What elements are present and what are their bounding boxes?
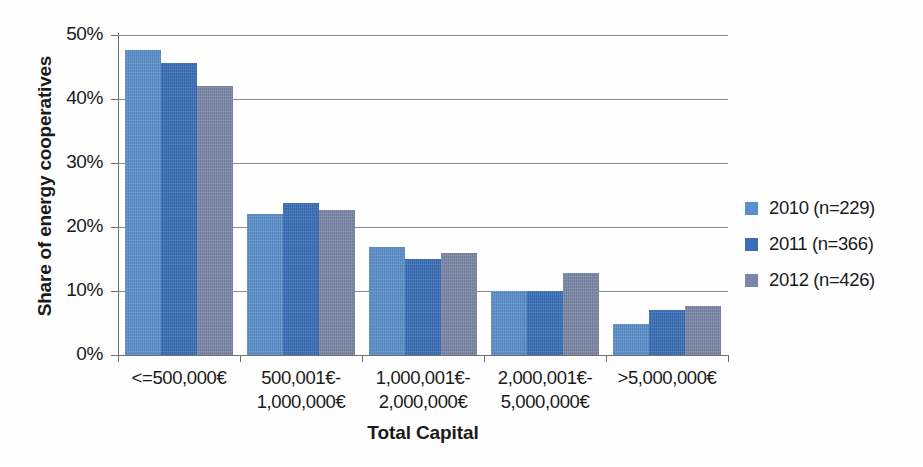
- bar: [369, 247, 405, 355]
- x-axis-category-label: 2,000,001€-5,000,000€: [476, 366, 614, 414]
- bar: [441, 253, 477, 355]
- bar-group: [613, 35, 721, 355]
- bar-group: [125, 35, 233, 355]
- y-axis-title: Share of energy cooperatives: [34, 21, 56, 351]
- y-axis-tick-mark: [111, 227, 118, 228]
- legend-item[interactable]: 2012 (n=426): [745, 262, 875, 298]
- bar: [247, 214, 283, 355]
- x-axis-category-label: <=500,000€: [110, 366, 248, 390]
- x-axis-tick-mark: [362, 355, 363, 362]
- plot-area: [118, 35, 728, 355]
- bar-group: [247, 35, 355, 355]
- y-axis-tick-mark: [111, 355, 118, 356]
- bar: [319, 210, 355, 355]
- legend-swatch-icon: [745, 238, 758, 251]
- y-axis-tick-mark: [111, 99, 118, 100]
- bar: [649, 310, 685, 355]
- bar-group: [491, 35, 599, 355]
- legend: 2010 (n=229)2011 (n=366)2012 (n=426): [745, 190, 875, 298]
- bar: [491, 291, 527, 355]
- bar: [527, 291, 563, 355]
- y-axis-tick-label: 40%: [45, 87, 103, 109]
- legend-item[interactable]: 2010 (n=229): [745, 190, 875, 226]
- y-axis-tick-label: 30%: [45, 151, 103, 173]
- x-axis-tick-mark: [118, 355, 119, 362]
- legend-swatch-icon: [745, 202, 758, 215]
- legend-item-label: 2011 (n=366): [769, 233, 873, 255]
- bar: [405, 259, 441, 355]
- legend-item-label: 2012 (n=426): [769, 269, 875, 291]
- x-axis-title: Total Capital: [118, 422, 728, 444]
- x-axis-category-label: 500,001€-1,000,000€: [232, 366, 370, 414]
- y-axis-tick-label: 10%: [45, 279, 103, 301]
- x-axis-tick-mark: [728, 355, 729, 362]
- bar: [197, 86, 233, 355]
- x-axis-tick-mark: [606, 355, 607, 362]
- bar: [161, 63, 197, 355]
- legend-swatch-icon: [745, 274, 758, 287]
- y-axis-tick-mark: [111, 291, 118, 292]
- y-axis-tick-label: 20%: [45, 215, 103, 237]
- bar-group: [369, 35, 477, 355]
- x-axis-category-label: >5,000,000€: [598, 366, 736, 390]
- legend-item[interactable]: 2011 (n=366): [745, 226, 875, 262]
- bar: [563, 273, 599, 355]
- bar: [685, 306, 721, 355]
- y-axis-tick-label: 50%: [45, 23, 103, 45]
- y-axis-tick-mark: [111, 35, 118, 36]
- bar-chart: Share of energy cooperatives 0%10%20%30%…: [0, 0, 923, 467]
- bar: [283, 203, 319, 355]
- axis-baseline: [118, 355, 728, 356]
- y-axis-tick-label: 0%: [45, 343, 103, 365]
- bar: [613, 324, 649, 355]
- legend-item-label: 2010 (n=229): [769, 197, 875, 219]
- x-axis-category-label: 1,000,001€-2,000,000€: [354, 366, 492, 414]
- y-axis-tick-mark: [111, 163, 118, 164]
- x-axis-tick-mark: [484, 355, 485, 362]
- bar: [125, 50, 161, 355]
- x-axis-tick-mark: [240, 355, 241, 362]
